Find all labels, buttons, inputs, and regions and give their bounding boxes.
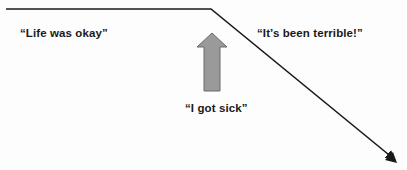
before-illness-label: “Life was okay” bbox=[20, 27, 108, 39]
block-arrow-up-icon bbox=[197, 33, 227, 91]
narrative-diagram: “Life was okay” “It’s been terrible!” “I… bbox=[0, 0, 407, 170]
illness-event-label: “I got sick” bbox=[185, 102, 248, 114]
after-illness-label: “It’s been terrible!” bbox=[257, 27, 363, 39]
trajectory-graphic bbox=[0, 0, 407, 170]
